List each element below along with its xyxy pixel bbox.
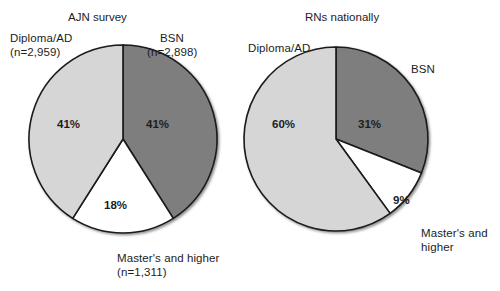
left-pct-bsn: 41% — [146, 118, 169, 130]
left-pct-diploma: 41% — [57, 118, 80, 130]
right-pct-masters: 9% — [393, 194, 410, 206]
right-pct-diploma: 60% — [272, 118, 295, 130]
right-label-bsn: BSN — [411, 63, 435, 77]
right-pct-bsn: 31% — [358, 118, 381, 130]
right-label-masters-line1: Master's and — [421, 227, 488, 241]
right-label-masters-line2: higher — [421, 241, 454, 255]
left-chart-title: AJN survey — [68, 11, 127, 23]
left-label-bsn-count: (n=2,898) — [147, 46, 197, 60]
right-label-diploma: Diploma/AD — [248, 42, 310, 56]
left-label-masters: Master's and higher — [117, 252, 220, 266]
left-label-diploma-count: (n=2,959) — [10, 46, 60, 60]
left-label-diploma: Diploma/AD — [10, 32, 72, 46]
left-label-bsn: BSN — [160, 32, 184, 46]
right-chart-title: RNs nationally — [305, 11, 379, 23]
left-pct-masters: 18% — [104, 199, 127, 211]
left-label-masters-count: (n=1,311) — [117, 266, 167, 280]
pie-chart-figure: AJN survey Diploma/AD (n=2,959) BSN (n=2… — [0, 0, 500, 291]
